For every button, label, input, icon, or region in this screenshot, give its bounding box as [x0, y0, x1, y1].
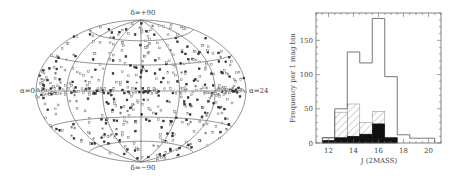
- y-tick-label: 50: [304, 105, 313, 113]
- x-tick-label: 16: [374, 147, 383, 155]
- x-axis-label: J (2MASS): [360, 157, 398, 165]
- y-tick-label: 150: [300, 37, 313, 45]
- label-ra-right: α=24: [249, 87, 269, 95]
- x-tick-label: 12: [324, 147, 333, 155]
- sky-map: [35, 20, 246, 162]
- x-tick-label: 20: [424, 147, 433, 155]
- y-tick-label: 100: [300, 71, 313, 79]
- y-tick-label: 0: [309, 140, 313, 148]
- label-dec-bottom: δ=−90: [131, 164, 156, 172]
- histogram: 1214161820050100150: [300, 13, 441, 155]
- label-dec-top: δ=+90: [131, 9, 156, 17]
- x-tick-label: 14: [349, 147, 358, 155]
- x-tick-label: 18: [399, 147, 408, 155]
- y-axis-label: Frequency per 1 mag bin: [289, 33, 297, 123]
- label-ra-left: α=0: [20, 87, 35, 95]
